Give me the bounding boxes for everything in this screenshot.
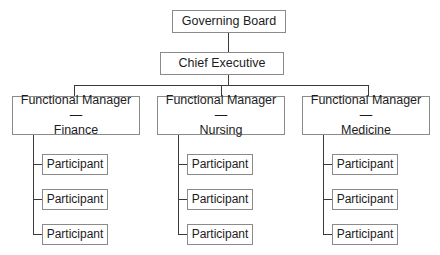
org-chart: Governing Board Chief Executive Function… [0, 0, 440, 255]
node-governing-board[interactable]: Governing Board [172, 10, 286, 33]
node-participant-medicine-1[interactable]: Participant [332, 154, 398, 175]
node-manager-nursing-label-line1: Functional Manager— [161, 93, 281, 123]
connector-stub-medicine-2 [323, 199, 332, 200]
node-manager-finance-label-line1: Functional Manager— [16, 93, 136, 123]
connector-board-to-executive [228, 33, 229, 52]
node-manager-nursing[interactable]: Functional Manager— Nursing [157, 96, 285, 135]
node-participant-medicine-3[interactable]: Participant [332, 224, 398, 245]
node-manager-finance-label-line2: Finance [16, 123, 136, 138]
connector-stub-finance-3 [33, 234, 42, 235]
node-participant-medicine-2-label: Participant [333, 192, 397, 206]
connector-stem-nursing [178, 135, 179, 234]
node-participant-nursing-1[interactable]: Participant [187, 154, 253, 175]
node-participant-nursing-2[interactable]: Participant [187, 189, 253, 210]
node-participant-finance-2[interactable]: Participant [42, 189, 108, 210]
node-manager-medicine-label-line2: Medicine [306, 123, 426, 138]
connector-stem-medicine [323, 135, 324, 234]
connector-stub-medicine-3 [323, 234, 332, 235]
node-manager-nursing-label-line2: Nursing [161, 123, 281, 138]
node-participant-finance-1-label: Participant [43, 157, 107, 171]
node-manager-medicine-label-line1: Functional Manager— [306, 93, 426, 123]
node-participant-nursing-1-label: Participant [188, 157, 252, 171]
connector-stub-finance-2 [33, 199, 42, 200]
node-participant-finance-1[interactable]: Participant [42, 154, 108, 175]
node-chief-executive-label: Chief Executive [161, 56, 283, 71]
node-chief-executive[interactable]: Chief Executive [160, 52, 284, 75]
node-participant-medicine-1-label: Participant [333, 157, 397, 171]
connector-stub-nursing-1 [178, 164, 187, 165]
connector-executive-drop [228, 75, 229, 85]
node-participant-medicine-2[interactable]: Participant [332, 189, 398, 210]
connector-stem-finance [33, 135, 34, 234]
node-participant-finance-3-label: Participant [43, 227, 107, 241]
node-participant-nursing-3[interactable]: Participant [187, 224, 253, 245]
node-governing-board-label: Governing Board [173, 14, 285, 29]
connector-stub-nursing-3 [178, 234, 187, 235]
node-participant-finance-3[interactable]: Participant [42, 224, 108, 245]
node-participant-finance-2-label: Participant [43, 192, 107, 206]
node-participant-nursing-3-label: Participant [188, 227, 252, 241]
connector-stub-medicine-1 [323, 164, 332, 165]
connector-stub-finance-1 [33, 164, 42, 165]
node-manager-finance[interactable]: Functional Manager— Finance [12, 96, 140, 135]
node-participant-nursing-2-label: Participant [188, 192, 252, 206]
node-participant-medicine-3-label: Participant [333, 227, 397, 241]
node-manager-medicine[interactable]: Functional Manager— Medicine [302, 96, 430, 135]
connector-stub-nursing-2 [178, 199, 187, 200]
